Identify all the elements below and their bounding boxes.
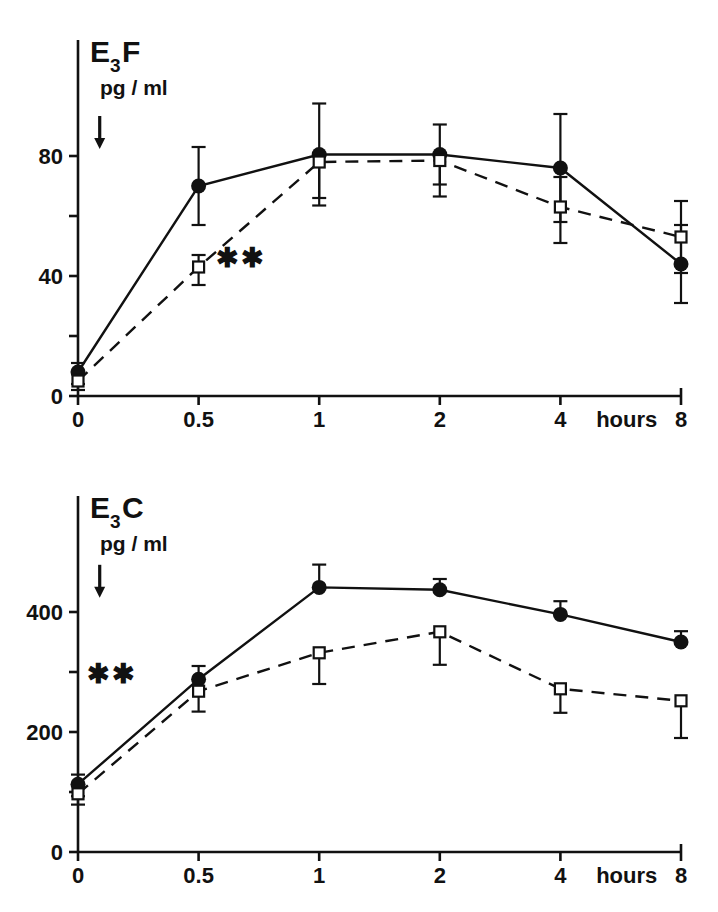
y-tick-label: 0 [51,840,63,865]
x-tick-label: 4 [554,863,567,888]
x-tick-label: 0 [72,863,84,888]
panel-title-subscript: 3 [110,511,121,532]
panel-top-title: E3Fpg / ml [90,35,168,99]
y-tick-label: 400 [26,600,63,625]
data-point-open-square [555,202,566,213]
x-tick-label: 0.5 [183,863,214,888]
panel-bottom-series-open-square-dashed [71,626,688,804]
x-tick-label: 2 [434,407,446,432]
data-point-filled-circle [553,161,568,176]
x-tick-label: 1 [313,407,325,432]
chart-panel-e3f: 0408000.51248hoursE3Fpg / ml✱✱ [0,0,718,456]
x-tick-label: 2 [434,863,446,888]
x-axis-label: hours [596,407,657,432]
panel-title-subscript: 3 [110,55,121,76]
data-point-filled-circle [553,607,568,622]
panel-title-suffix: C [122,491,144,524]
significance-marker: ✱✱ [87,659,137,689]
y-tick-label: 200 [26,720,63,745]
data-point-open-square [73,788,84,799]
x-axis-label: hours [596,863,657,888]
data-point-open-square [676,232,687,243]
panel-top-series-filled-circle-solid [71,104,689,385]
data-point-filled-circle [191,672,206,687]
data-point-open-square [73,376,84,387]
significance-marker: ✱✱ [216,243,266,273]
data-point-filled-circle [432,582,447,597]
x-tick-label: 8 [675,863,687,888]
y-tick-label: 0 [51,384,63,409]
panel-title: E [90,491,110,524]
data-point-open-square [314,647,325,658]
panel-top-canvas: 0408000.51248hoursE3Fpg / ml✱✱ [0,0,718,456]
panel-bottom-title: E3Cpg / ml [90,491,168,555]
data-point-open-square [676,695,687,706]
data-point-open-square [193,262,204,273]
panel-top-axes [78,40,681,396]
y-axis-units-label: pg / ml [100,76,168,99]
y-axis-units-label: pg / ml [100,532,168,555]
x-tick-label: 4 [554,407,567,432]
panel-bottom-x-ticks: 00.51248hours [72,852,687,888]
down-arrow-head-icon [94,587,105,598]
down-arrow-head-icon [94,138,105,149]
y-tick-label: 40 [39,264,63,289]
panel-bottom-canvas: 020040000.51248hoursE3Cpg / ml✱✱ [0,456,718,912]
figure-root: 0408000.51248hoursE3Fpg / ml✱✱ 020040000… [0,0,718,912]
panel-bottom-y-ticks: 0200400 [26,600,78,865]
data-point-open-square [314,157,325,168]
series-line-open-square [78,161,681,382]
panel-top-series-open-square-dashed [71,155,688,391]
panel-top-x-ticks: 00.51248hours [72,396,687,432]
data-point-filled-circle [674,635,689,650]
panel-bottom-series-filled-circle-solid [71,565,689,797]
data-point-open-square [434,155,445,166]
panel-bottom-axes [78,496,681,852]
x-tick-label: 0 [72,407,84,432]
y-tick-label: 80 [39,144,63,169]
series-line-filled-circle [78,587,681,784]
x-tick-label: 8 [675,407,687,432]
x-tick-label: 1 [313,863,325,888]
chart-panel-e3c: 020040000.51248hoursE3Cpg / ml✱✱ [0,456,718,912]
series-line-open-square [78,632,681,794]
panel-top-annotations: ✱✱ [94,116,266,273]
data-point-filled-circle [191,179,206,194]
data-point-open-square [555,683,566,694]
x-tick-label: 0.5 [183,407,214,432]
panel-title: E [90,35,110,68]
panel-bottom-annotations: ✱✱ [87,565,137,690]
data-point-open-square [434,626,445,637]
series-line-filled-circle [78,155,681,373]
data-point-open-square [193,686,204,697]
panel-title-suffix: F [122,35,140,68]
data-point-filled-circle [312,580,327,595]
